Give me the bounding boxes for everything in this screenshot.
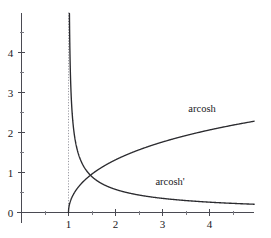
arcosh-plot-figure: 123401234 arcosharcosh' — [0, 0, 271, 238]
curve-label-arcosh: arcosh — [188, 103, 216, 114]
y-tick-label: 4 — [8, 47, 14, 59]
y-tick-label: 1 — [8, 167, 14, 179]
curve-label-arcosh: arcosh' — [155, 176, 184, 187]
x-tick-label: 1 — [66, 218, 72, 230]
y-tick-label: 3 — [8, 87, 14, 99]
y-tick-label: 2 — [8, 127, 14, 139]
plot-background — [0, 0, 271, 238]
x-tick-label: 2 — [113, 218, 119, 230]
y-tick-label: 0 — [8, 207, 14, 219]
x-tick-label: 3 — [160, 218, 166, 230]
plot-canvas: 123401234 arcosharcosh' — [0, 0, 271, 238]
x-tick-label: 4 — [207, 218, 213, 230]
